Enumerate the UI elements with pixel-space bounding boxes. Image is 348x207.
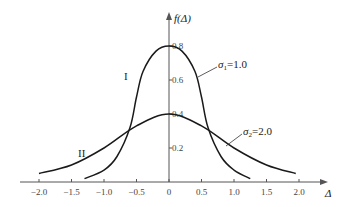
- y-tick-label: 0.6: [172, 75, 184, 85]
- y-ticks: 0.20.40.60.8: [169, 41, 184, 153]
- x-tick-label: −1.0: [96, 187, 113, 197]
- x-tick-label: −2.0: [31, 187, 48, 197]
- sigma-1-annotation: σ1=1.0: [218, 58, 247, 72]
- x-tick-label: 1.0: [228, 187, 240, 197]
- sigma-2-leader-line: [226, 134, 242, 146]
- x-tick-label: 0: [167, 187, 172, 197]
- curve-2-label: II: [78, 147, 86, 159]
- normal-distribution-chart: −2.0−1.5−1.0−0.500.51.01.52.0 0.20.40.60…: [0, 0, 348, 207]
- x-tick-label: −1.5: [63, 187, 80, 197]
- y-tick-label: 0.2: [172, 143, 183, 153]
- x-axis-label: Δ: [324, 187, 331, 199]
- sigma-1-leader-line: [198, 67, 217, 77]
- y-axis-label: f(Δ): [174, 12, 191, 25]
- y-axis-arrow-icon: [166, 12, 172, 20]
- x-tick-label: 0.5: [196, 187, 208, 197]
- curve-sigma-2: [39, 114, 296, 174]
- x-tick-label: 1.5: [261, 187, 273, 197]
- sigma-2-annotation: σ2=2.0: [243, 125, 272, 139]
- x-tick-label: −0.5: [128, 187, 145, 197]
- x-axis-arrow-icon: [320, 179, 328, 185]
- x-tick-label: 2.0: [293, 187, 305, 197]
- curve-1-label: I: [124, 70, 128, 82]
